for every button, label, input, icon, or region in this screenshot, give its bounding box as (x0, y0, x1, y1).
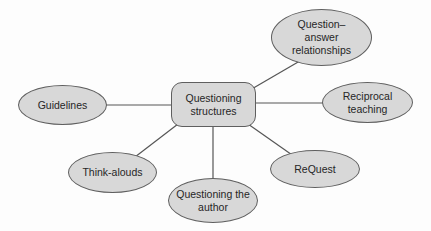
node-request: ReQuest (270, 150, 360, 188)
node-guidelines: Guidelines (18, 85, 107, 125)
node-question-answer-relationships-label: Question– answer relationships (292, 18, 351, 57)
connector-center-to-question-answer-relationships (250, 58, 305, 90)
concept-map: Questioning structures Question– answer … (0, 0, 431, 231)
connector-center-to-think-alouds (135, 124, 178, 157)
node-questioning-the-author: Questioning the author (168, 178, 258, 223)
node-question-answer-relationships: Question– answer relationships (271, 9, 372, 66)
node-reciprocal-teaching: Reciprocal teaching (322, 82, 413, 123)
connector-center-to-request (248, 124, 295, 157)
node-request-label: ReQuest (294, 163, 335, 176)
node-think-alouds: Think-alouds (68, 152, 157, 193)
node-questioning-the-author-label: Questioning the author (176, 188, 250, 214)
node-questioning-structures: Questioning structures (171, 82, 256, 127)
node-reciprocal-teaching-label: Reciprocal teaching (343, 90, 393, 116)
node-guidelines-label: Guidelines (38, 99, 88, 112)
node-think-alouds-label: Think-alouds (82, 166, 142, 179)
node-questioning-structures-label: Questioning structures (185, 92, 241, 118)
